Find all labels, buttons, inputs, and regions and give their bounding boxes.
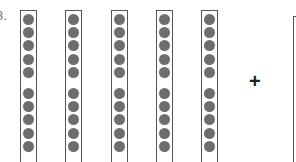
dot xyxy=(159,67,170,78)
dot xyxy=(159,101,170,112)
dot xyxy=(159,54,170,65)
dot xyxy=(114,141,125,152)
dot xyxy=(114,54,125,65)
dot xyxy=(114,128,125,139)
dot xyxy=(204,67,215,78)
dot xyxy=(204,101,215,112)
plus-sign: + xyxy=(249,71,261,91)
ten-rod xyxy=(201,10,218,162)
dot xyxy=(114,114,125,125)
answer-box xyxy=(293,16,296,162)
dot xyxy=(204,54,215,65)
dot xyxy=(68,40,79,51)
dot xyxy=(23,128,34,139)
dot xyxy=(68,88,79,99)
dot xyxy=(204,114,215,125)
dot xyxy=(68,14,79,25)
dot xyxy=(23,88,34,99)
dot xyxy=(159,27,170,38)
ten-rod xyxy=(65,10,82,162)
dot xyxy=(68,27,79,38)
problem-number: 3. xyxy=(0,8,7,23)
ten-rod xyxy=(111,10,128,162)
dot xyxy=(159,40,170,51)
dot xyxy=(204,141,215,152)
dot xyxy=(204,27,215,38)
ten-rod xyxy=(156,10,173,162)
dot xyxy=(68,54,79,65)
dot xyxy=(114,88,125,99)
dot xyxy=(23,114,34,125)
dot xyxy=(68,128,79,139)
dot xyxy=(23,101,34,112)
dot xyxy=(23,141,34,152)
dot xyxy=(114,40,125,51)
dot xyxy=(204,14,215,25)
dot xyxy=(159,141,170,152)
dot xyxy=(114,67,125,78)
dot xyxy=(159,14,170,25)
dot xyxy=(23,67,34,78)
dot xyxy=(114,101,125,112)
ten-rod xyxy=(20,10,37,162)
dot xyxy=(68,114,79,125)
dot xyxy=(23,54,34,65)
dot xyxy=(204,128,215,139)
dot xyxy=(204,88,215,99)
dot xyxy=(114,27,125,38)
dot xyxy=(114,14,125,25)
dot xyxy=(159,88,170,99)
dot xyxy=(23,40,34,51)
dot xyxy=(23,27,34,38)
dot xyxy=(68,141,79,152)
dot xyxy=(68,67,79,78)
dot xyxy=(68,101,79,112)
dot xyxy=(159,114,170,125)
dot xyxy=(23,14,34,25)
dot xyxy=(159,128,170,139)
dot xyxy=(204,40,215,51)
